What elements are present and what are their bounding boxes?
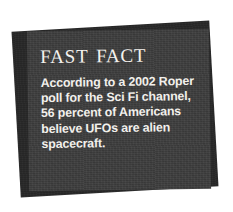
fact-box-graphic: Fast Fact According to a 2002 Roper poll… bbox=[0, 0, 233, 212]
fact-body: According to a 2002 Roper poll for the S… bbox=[41, 73, 199, 152]
fast-fact-card: Fast Fact According to a 2002 Roper poll… bbox=[27, 29, 211, 192]
fact-body-line: spacecraft. bbox=[41, 135, 198, 153]
card-content: Fast Fact According to a 2002 Roper poll… bbox=[27, 29, 211, 153]
fact-title: Fast Fact bbox=[40, 39, 197, 69]
fact-body-line: 56 percent of Americans bbox=[41, 104, 198, 122]
